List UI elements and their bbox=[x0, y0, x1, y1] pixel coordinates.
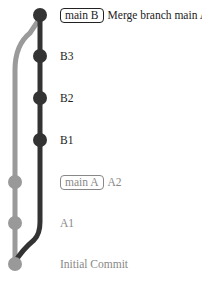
branch-tag: main B bbox=[60, 8, 104, 23]
commit-row-b3[interactable]: B3 bbox=[60, 48, 73, 64]
branch-tag: main A bbox=[60, 175, 104, 190]
commit-row-a1[interactable]: A1 bbox=[60, 215, 74, 231]
commit-node-a1[interactable] bbox=[8, 216, 22, 230]
commit-message: B1 bbox=[60, 134, 73, 146]
commit-node-initial[interactable] bbox=[8, 257, 22, 271]
commit-message: B3 bbox=[60, 50, 73, 62]
commit-graph bbox=[0, 0, 202, 284]
commit-message: A2 bbox=[108, 176, 122, 188]
commit-node-b1[interactable] bbox=[33, 133, 47, 147]
commit-row-b2[interactable]: B2 bbox=[60, 90, 73, 106]
commit-row-initial[interactable]: Initial Commit bbox=[60, 256, 128, 272]
commit-row-a2[interactable]: main A A2 bbox=[60, 174, 122, 190]
commit-row-b1[interactable]: B1 bbox=[60, 132, 73, 148]
commit-node-b3[interactable] bbox=[33, 49, 47, 63]
commit-node-b2[interactable] bbox=[33, 91, 47, 105]
commit-message: Initial Commit bbox=[60, 258, 128, 270]
commit-row-merge[interactable]: main B Merge branch main A bbox=[60, 7, 202, 23]
commit-message: Merge branch main A bbox=[108, 9, 202, 21]
commit-node-merge[interactable] bbox=[33, 8, 47, 22]
commit-node-a2[interactable] bbox=[8, 175, 22, 189]
commit-message: B2 bbox=[60, 92, 73, 104]
commit-message: A1 bbox=[60, 217, 74, 229]
